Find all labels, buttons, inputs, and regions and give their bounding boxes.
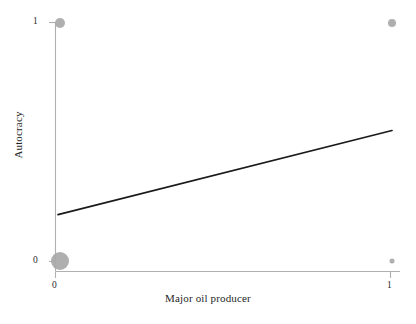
- regression-line: [58, 131, 392, 215]
- data-point-bubble: [51, 252, 69, 270]
- data-point-bubble: [55, 18, 65, 28]
- x-tick-label-0: 0: [52, 281, 57, 291]
- y-tick-label-0: 0: [33, 256, 38, 266]
- y-tick-label-1: 1: [33, 17, 38, 27]
- data-point-bubble: [390, 259, 395, 264]
- data-point-bubble: [388, 19, 396, 27]
- scatter-plot-canvas: [0, 0, 416, 324]
- x-axis-title: Major oil producer: [0, 292, 416, 304]
- x-tick-label-1: 1: [387, 281, 392, 291]
- chart-figure: 1 0 0 1 Major oil producer Autocracy: [0, 0, 416, 324]
- y-axis-title: Autocracy: [12, 85, 24, 185]
